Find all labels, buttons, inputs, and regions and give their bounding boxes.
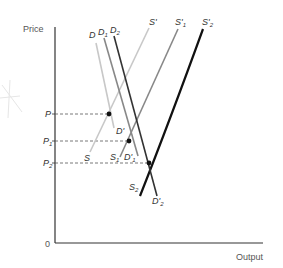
demand-curve-d1: [104, 38, 138, 156]
equilibrium-point-e1: [127, 139, 132, 144]
label-d-prime: D': [116, 126, 124, 136]
y-axis-label: Price: [23, 24, 44, 34]
price-label-p2: P2: [43, 158, 53, 169]
equilibrium-point-e2: [147, 161, 152, 166]
label-d: D: [89, 30, 96, 40]
equilibrium-point-e: [107, 112, 112, 117]
demand-curve-d: [96, 43, 114, 128]
x-axis-label: Output: [236, 252, 264, 262]
label-d1: D1: [98, 27, 108, 38]
price-label-p: P: [45, 109, 51, 119]
label-d2: D2: [110, 25, 121, 36]
label-d1-prime: D'1: [124, 152, 136, 163]
label-s: S: [84, 153, 90, 163]
label-d2-prime: D'2: [152, 196, 164, 207]
price-label-p1: P1: [43, 136, 52, 147]
demand-curve-d2: [114, 36, 157, 196]
supply-demand-diagram: Price Output 0 P P1 P2 D D1 D2 D' D'1 D'…: [0, 0, 283, 268]
label-s2-prime: S'2: [202, 17, 214, 28]
origin-label: 0: [45, 239, 50, 249]
label-s-prime: S': [149, 17, 157, 27]
price-guides: [55, 114, 149, 163]
background-artifact: [0, 80, 22, 118]
label-s1-prime: S'1: [175, 17, 186, 28]
label-s1: S1: [110, 152, 119, 163]
label-s2: S2: [129, 182, 139, 193]
